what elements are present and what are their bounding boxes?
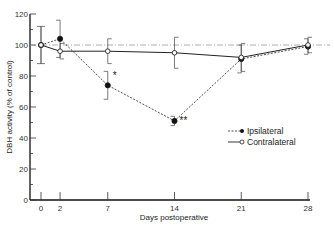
x-tick-label: 14 bbox=[170, 204, 179, 213]
series-ipsilateral bbox=[37, 20, 311, 125]
chart: 020406080100120027142128 *** Ipsilateral… bbox=[0, 0, 334, 229]
legend-contralateral-label: Contralateral bbox=[247, 137, 296, 147]
y-tick-label: 100 bbox=[15, 41, 29, 50]
data-point-open bbox=[58, 49, 63, 54]
y-tick-label: 60 bbox=[19, 103, 28, 112]
x-tick-label: 21 bbox=[237, 204, 246, 213]
data-point-open bbox=[239, 55, 244, 60]
y-tick-label: 40 bbox=[19, 134, 28, 143]
x-tick-label: 2 bbox=[58, 204, 63, 213]
legend-ipsilateral-marker bbox=[240, 129, 244, 133]
data-point-filled bbox=[172, 118, 177, 123]
legend-ipsilateral-label: Ipsilateral bbox=[247, 126, 283, 136]
data-point-open bbox=[39, 43, 44, 48]
significance-marker: ** bbox=[180, 115, 188, 126]
data-point-filled bbox=[57, 36, 62, 41]
y-axis-title: DBH activity (% of control) bbox=[5, 60, 14, 154]
y-tick-label: 20 bbox=[19, 165, 28, 174]
legend-contralateral-marker bbox=[240, 140, 244, 144]
x-tick-label: 0 bbox=[39, 204, 44, 213]
data-point-open bbox=[306, 43, 311, 48]
x-tick-label: 7 bbox=[106, 204, 111, 213]
series-contralateral bbox=[39, 26, 312, 71]
data-point-filled bbox=[105, 83, 110, 88]
x-tick-label: 28 bbox=[304, 204, 313, 213]
y-tick-label: 0 bbox=[24, 196, 29, 205]
legend: Ipsilateral Contralateral bbox=[228, 126, 296, 147]
y-tick-label: 80 bbox=[19, 72, 28, 81]
y-tick-label: 120 bbox=[15, 10, 29, 19]
significance-marker: * bbox=[113, 70, 117, 81]
data-point-open bbox=[105, 49, 110, 54]
data-point-open bbox=[172, 50, 177, 55]
x-axis-title: Days postoperative bbox=[140, 213, 209, 222]
series-group: *** bbox=[37, 20, 312, 126]
